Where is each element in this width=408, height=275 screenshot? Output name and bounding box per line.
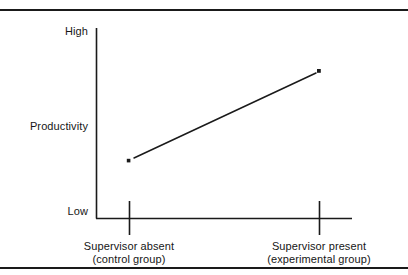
data-point-marker-1 — [317, 69, 321, 73]
x-axis-tick-label-0-line2: (control group) — [39, 253, 219, 266]
y-axis-title: Productivity — [2, 120, 88, 132]
plot-area — [0, 0, 408, 275]
x-axis-tick-label-0-line1: Supervisor absent — [84, 240, 174, 252]
x-axis-tick-label-1-line1: Supervisor present — [272, 240, 366, 252]
x-axis-tick-label-control-group: Supervisor absent (control group) — [39, 240, 219, 266]
data-point-marker-0 — [127, 159, 131, 163]
y-axis-tick-label-high: High — [2, 25, 88, 37]
data-line-segment — [134, 73, 316, 158]
figure-container: High Productivity Low Supervisor absent … — [0, 0, 408, 275]
x-axis-tick-label-1-line2: (experimental group) — [229, 253, 408, 266]
y-axis-tick-label-low: Low — [2, 205, 88, 217]
x-axis-tick-label-experimental-group: Supervisor present (experimental group) — [229, 240, 408, 266]
